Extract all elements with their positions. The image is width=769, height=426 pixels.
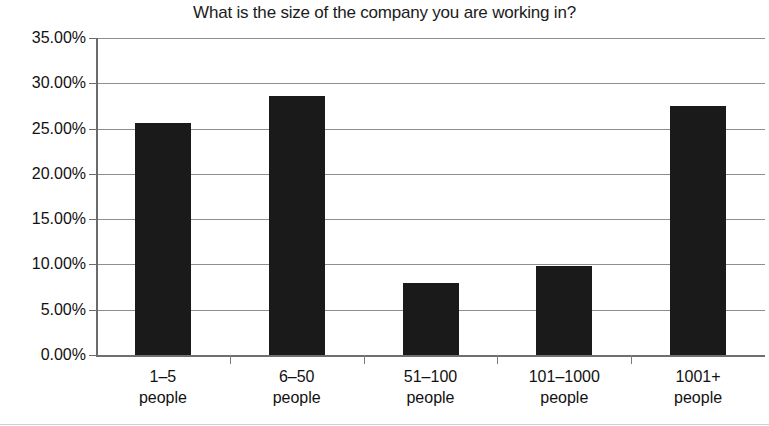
bar — [403, 283, 459, 355]
y-axis-tick — [89, 38, 96, 39]
y-axis-tick-label: 20.00% — [2, 166, 86, 182]
y-axis-tick — [89, 310, 96, 311]
y-axis-tick — [89, 355, 96, 356]
y-axis-tick-label: 35.00% — [2, 30, 86, 46]
y-axis-tick — [89, 129, 96, 130]
x-axis-category-label: 1–5people — [96, 366, 230, 408]
y-axis-tick — [89, 174, 96, 175]
category-unit-text: people — [96, 387, 230, 408]
category-unit-text: people — [364, 387, 498, 408]
x-axis-tick — [364, 355, 365, 364]
y-axis-line — [96, 38, 98, 356]
x-axis-tick — [631, 355, 632, 364]
bar — [670, 106, 726, 355]
category-unit-text: people — [631, 387, 765, 408]
category-range-text: 51–100 — [364, 366, 498, 387]
bar — [135, 123, 191, 355]
category-range-text: 1–5 — [96, 366, 230, 387]
bar-chart: What is the size of the company you are … — [0, 0, 769, 426]
y-axis-tick — [89, 83, 96, 84]
category-range-text: 101–1000 — [497, 366, 631, 387]
x-axis-category-label: 101–1000people — [497, 366, 631, 408]
y-axis-tick-label: 10.00% — [2, 256, 86, 272]
gridline-3500 — [96, 38, 765, 39]
x-axis-line — [96, 355, 765, 357]
y-axis-tick-label: 25.00% — [2, 121, 86, 137]
bar — [536, 266, 592, 355]
plot-area — [96, 38, 765, 355]
gridline-2500 — [96, 129, 765, 130]
gridline-1500 — [96, 219, 765, 220]
y-axis-tick — [89, 264, 96, 265]
bar — [269, 96, 325, 355]
category-unit-text: people — [230, 387, 364, 408]
category-unit-text: people — [497, 387, 631, 408]
gridline-2000 — [96, 174, 765, 175]
y-axis-tick-label: 0.00% — [2, 347, 86, 363]
gridline-1000 — [96, 264, 765, 265]
chart-title: What is the size of the company you are … — [0, 2, 769, 24]
x-axis-tick — [497, 355, 498, 364]
y-axis-tick-labels: 0.00%5.00%10.00%15.00%20.00%25.00%30.00%… — [0, 0, 86, 426]
category-range-text: 1001+ — [631, 366, 765, 387]
x-axis-tick — [230, 355, 231, 364]
x-axis-category-label: 6–50people — [230, 366, 364, 408]
page-bottom-rule — [0, 424, 769, 425]
y-axis-tick-label: 5.00% — [2, 302, 86, 318]
x-axis-category-label: 1001+people — [631, 366, 765, 408]
category-range-text: 6–50 — [230, 366, 364, 387]
y-axis-tick — [89, 219, 96, 220]
y-axis-tick-label: 15.00% — [2, 211, 86, 227]
y-axis-tick-label: 30.00% — [2, 75, 86, 91]
gridline-3000 — [96, 83, 765, 84]
x-axis-category-label: 51–100people — [364, 366, 498, 408]
